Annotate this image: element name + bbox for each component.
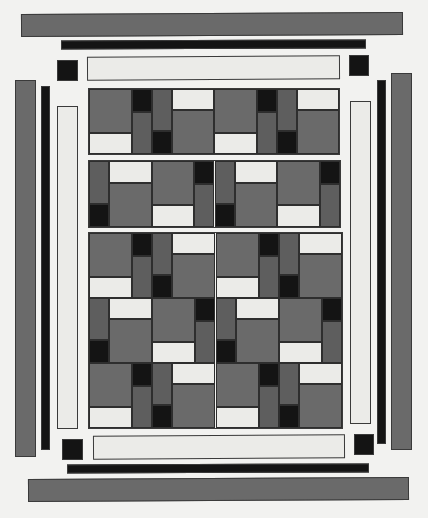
dark-gray-column (194, 184, 214, 227)
gray-square (235, 183, 278, 227)
cream-strip (299, 363, 342, 384)
corner-square-top-left (57, 60, 78, 81)
dark-gray-column (279, 233, 299, 275)
black-patch (277, 131, 297, 154)
gray-square (277, 161, 320, 205)
gray-square (152, 161, 195, 205)
gray-square (172, 384, 215, 428)
black-patch (259, 233, 279, 256)
top-sashing-strip (87, 55, 340, 80)
black-patch (215, 204, 235, 227)
gray-square (279, 298, 322, 342)
dark-gray-column (320, 184, 340, 227)
cream-strip (152, 205, 195, 227)
cream-strip (89, 407, 132, 428)
cream-strip (214, 133, 257, 154)
dark-gray-column (152, 233, 172, 275)
right-sashing-strip (350, 101, 371, 424)
cream-strip (172, 363, 215, 384)
dark-gray-column (132, 112, 152, 154)
black-patch (216, 340, 236, 363)
gray-square (216, 233, 259, 277)
black-patch (132, 363, 152, 386)
black-patch (89, 204, 109, 227)
black-patch (195, 298, 215, 321)
cream-strip (297, 89, 340, 110)
black-patch (152, 275, 172, 298)
dark-gray-column (259, 256, 279, 298)
gray-square (109, 183, 152, 227)
gray-square (172, 254, 215, 298)
left-outer-bar (15, 80, 36, 457)
black-patch (152, 131, 172, 154)
black-patch (257, 89, 277, 112)
black-patch (259, 363, 279, 386)
right-inner-bar (377, 80, 386, 444)
gray-square (89, 233, 132, 277)
corner-square-bottom-left (62, 439, 83, 460)
black-patch (132, 233, 152, 256)
top-inner-bar (61, 39, 366, 49)
cream-strip (216, 407, 259, 428)
gray-square (299, 254, 342, 298)
black-patch (322, 298, 342, 321)
cream-strip (216, 277, 259, 298)
dark-gray-column (322, 321, 342, 363)
cream-strip (279, 342, 322, 363)
gray-square (172, 110, 215, 154)
right-outer-bar (391, 73, 412, 450)
gray-square (297, 110, 340, 154)
gray-square (214, 89, 257, 133)
cream-strip (172, 89, 215, 110)
dark-gray-column (132, 386, 152, 428)
dark-gray-column (132, 256, 152, 298)
panel-2 (88, 160, 341, 228)
dark-gray-column (257, 112, 277, 154)
top-outer-bar (21, 12, 403, 37)
dark-gray-column (216, 298, 236, 340)
black-patch (152, 405, 172, 428)
cream-strip (172, 233, 215, 254)
gray-square (89, 89, 132, 133)
gray-square (152, 298, 195, 342)
dark-gray-column (89, 161, 109, 204)
left-inner-bar (41, 86, 50, 450)
dark-gray-column (152, 363, 172, 405)
cream-strip (277, 205, 320, 227)
cream-strip (109, 298, 152, 319)
black-patch (89, 340, 109, 363)
bottom-inner-bar (67, 463, 369, 473)
dark-gray-column (195, 321, 215, 363)
cream-strip (235, 161, 278, 183)
corner-square-bottom-right (354, 434, 374, 455)
dark-gray-column (279, 363, 299, 405)
dark-gray-column (259, 386, 279, 428)
black-patch (132, 89, 152, 112)
bottom-sashing-strip (93, 434, 345, 459)
black-patch (279, 405, 299, 428)
panel-1 (88, 88, 340, 155)
gray-square (299, 384, 342, 428)
dark-gray-column (277, 89, 297, 131)
cream-strip (152, 342, 195, 363)
gray-square (236, 319, 279, 363)
black-patch (320, 161, 340, 184)
dark-gray-column (89, 298, 109, 340)
gray-square (216, 363, 259, 407)
gray-square (89, 363, 132, 407)
left-sashing-strip (57, 106, 78, 429)
cream-strip (236, 298, 279, 319)
black-patch (279, 275, 299, 298)
corner-square-top-right (349, 55, 369, 76)
black-patch (194, 161, 214, 184)
bottom-outer-bar (28, 477, 409, 502)
dark-gray-column (215, 161, 235, 204)
cream-strip (89, 277, 132, 298)
panel-3 (88, 232, 343, 429)
cream-strip (299, 233, 342, 254)
cream-strip (89, 133, 132, 154)
gray-square (109, 319, 152, 363)
cream-strip (109, 161, 152, 183)
dark-gray-column (152, 89, 172, 131)
